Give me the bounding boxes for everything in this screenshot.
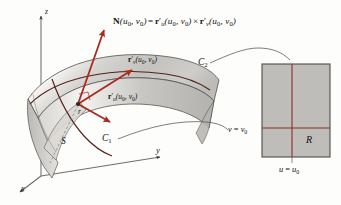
v-lhs: v	[228, 125, 232, 134]
z-axis-label: z	[45, 8, 48, 16]
equation-equals: =	[147, 16, 155, 26]
surface-point	[76, 102, 80, 106]
curve-c2-label: C2	[198, 58, 208, 69]
normal-equation: N(u0, v0)=r′u(u0, v0)×r′v(u0, v0)	[113, 17, 236, 27]
parameter-domain	[262, 64, 330, 163]
region-rect	[262, 64, 330, 157]
u-constant-label: u = u0	[279, 166, 299, 175]
leader-c2	[210, 48, 290, 63]
surface-normal-figure: N(u0, v0)=r′u(u0, v0)×r′v(u0, v0) r′v(u0…	[0, 0, 341, 205]
u-sub: 0	[296, 169, 299, 175]
curve-c1-label: C1	[102, 134, 112, 145]
position-vector-label: r	[78, 108, 81, 115]
equation-cross: ×	[191, 16, 199, 26]
v-equals: =	[234, 125, 239, 134]
surface-label: S	[61, 137, 66, 147]
v-sub: 0	[244, 129, 247, 135]
v-constant-label: v = v0	[228, 126, 247, 135]
y-axis	[41, 157, 160, 176]
tangent-u-vector-label: r′u(u0, v0)	[108, 93, 137, 102]
y-axis-label: y	[156, 146, 160, 155]
parametric-surface	[28, 55, 219, 178]
c1-subscript: 1	[108, 137, 111, 144]
c2-subscript: 2	[204, 61, 207, 68]
x-axis-label: x	[21, 185, 25, 193]
tangent-v-vector-label: r′v(u0, v0)	[128, 56, 157, 65]
leader-c1	[118, 122, 228, 139]
u-lhs: u	[279, 165, 283, 174]
equation-N-symbol: N	[113, 16, 120, 26]
region-label: R	[306, 135, 312, 145]
u-equals: =	[285, 165, 290, 174]
